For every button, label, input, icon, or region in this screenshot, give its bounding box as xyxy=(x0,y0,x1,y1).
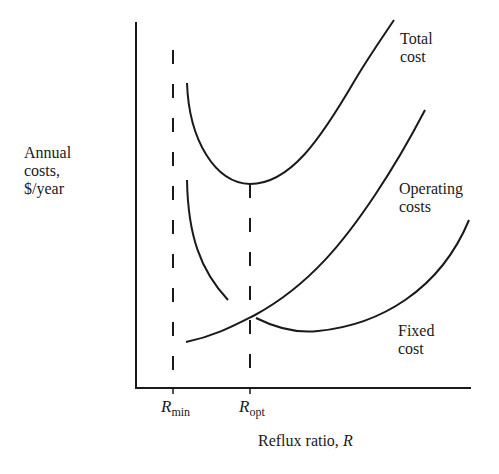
rmin-subscript: min xyxy=(171,405,190,419)
operating-costs-label-line2: costs xyxy=(399,198,463,216)
fixed-cost-label: Fixed cost xyxy=(398,322,434,358)
total-cost-curve xyxy=(187,20,394,184)
ropt-subscript: opt xyxy=(249,405,264,419)
x-axis-label-symbol: R xyxy=(343,432,353,449)
x-axis-label-text: Reflux ratio, xyxy=(258,432,343,449)
ropt-symbol: R xyxy=(239,397,249,416)
total-cost-label-line1: Total xyxy=(400,30,433,48)
y-axis-label-line1: Annual xyxy=(24,144,71,162)
ropt-tick-label: Ropt xyxy=(239,397,265,420)
operating-costs-curve xyxy=(186,110,425,342)
operating-costs-label-line1: Operating xyxy=(399,180,463,198)
x-axis-label: Reflux ratio, R xyxy=(258,432,353,450)
y-axis-label-line3: $/year xyxy=(24,180,71,198)
total-cost-label: Total cost xyxy=(400,30,433,66)
fixed-cost-rising-curve xyxy=(256,220,469,332)
total-cost-label-line2: cost xyxy=(400,48,433,66)
fixed-cost-label-line1: Fixed xyxy=(398,322,434,340)
fixed-cost-descending-curve xyxy=(187,180,228,300)
y-axis-label: Annual costs, $/year xyxy=(24,144,71,198)
y-axis-label-line2: costs, xyxy=(24,162,71,180)
operating-costs-label: Operating costs xyxy=(399,180,463,216)
rmin-symbol: R xyxy=(161,397,171,416)
rmin-tick-label: Rmin xyxy=(161,397,190,420)
fixed-cost-label-line2: cost xyxy=(398,340,434,358)
